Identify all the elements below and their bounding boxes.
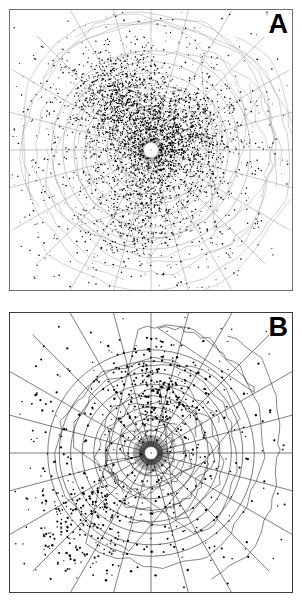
data-point xyxy=(226,85,227,86)
data-point xyxy=(150,65,151,66)
data-point xyxy=(86,112,88,114)
data-point xyxy=(220,168,221,169)
data-point xyxy=(63,428,65,430)
data-point xyxy=(167,493,169,495)
data-point xyxy=(105,511,107,513)
data-point xyxy=(151,210,152,211)
data-point xyxy=(131,202,132,203)
data-point xyxy=(128,258,129,259)
data-point xyxy=(148,178,150,180)
data-point xyxy=(159,201,161,203)
data-point xyxy=(255,170,256,171)
data-point xyxy=(148,105,150,107)
data-point xyxy=(220,90,222,92)
data-point xyxy=(33,210,34,211)
data-point xyxy=(126,110,127,111)
data-point xyxy=(98,524,99,525)
data-point xyxy=(72,218,73,219)
data-point xyxy=(96,220,98,222)
data-point xyxy=(117,183,118,184)
data-point xyxy=(159,145,160,146)
data-point xyxy=(127,137,128,138)
data-point xyxy=(124,197,125,198)
data-point xyxy=(117,531,119,533)
data-point xyxy=(211,496,213,498)
data-point xyxy=(67,228,69,230)
data-point xyxy=(126,130,127,131)
data-point xyxy=(195,140,196,141)
data-point xyxy=(138,112,139,113)
data-point xyxy=(67,527,69,529)
data-point xyxy=(118,368,120,370)
data-point xyxy=(198,124,199,125)
data-point xyxy=(72,115,73,116)
data-point xyxy=(131,251,133,253)
data-point xyxy=(148,71,149,72)
data-point xyxy=(183,122,184,123)
data-point xyxy=(181,152,183,154)
data-point xyxy=(152,469,154,471)
data-point xyxy=(172,100,173,101)
data-point xyxy=(193,99,195,101)
data-point xyxy=(219,231,221,233)
data-point xyxy=(195,132,197,134)
data-point xyxy=(163,113,164,114)
data-point xyxy=(54,136,55,137)
data-point xyxy=(207,401,209,403)
data-point xyxy=(102,140,103,141)
data-point xyxy=(105,114,106,115)
data-point xyxy=(149,111,150,112)
data-point xyxy=(201,249,202,250)
data-point xyxy=(176,198,177,199)
data-point xyxy=(79,93,80,94)
data-point xyxy=(21,246,22,247)
data-point xyxy=(208,185,209,186)
panel-b-map xyxy=(10,313,292,592)
data-point xyxy=(150,401,152,403)
data-point xyxy=(165,196,166,197)
data-point xyxy=(210,137,211,138)
data-point xyxy=(269,409,271,411)
data-point xyxy=(166,129,167,130)
data-point xyxy=(62,99,63,100)
data-point xyxy=(156,439,158,441)
data-point xyxy=(115,125,116,126)
data-point xyxy=(138,96,139,97)
data-point xyxy=(128,83,129,84)
data-point xyxy=(166,212,168,214)
data-point xyxy=(132,63,133,64)
data-point xyxy=(259,113,260,114)
data-point xyxy=(122,110,123,111)
data-point xyxy=(92,147,93,148)
data-point xyxy=(179,163,180,164)
data-point xyxy=(189,158,190,159)
data-point xyxy=(136,249,138,251)
data-point xyxy=(266,91,268,93)
data-point xyxy=(85,92,87,94)
data-point xyxy=(47,453,49,455)
data-point xyxy=(130,491,132,493)
data-point xyxy=(174,96,175,97)
data-point xyxy=(252,90,254,92)
data-point xyxy=(182,422,184,424)
data-point xyxy=(139,156,140,157)
data-point xyxy=(76,499,78,501)
data-point xyxy=(216,516,218,518)
data-point xyxy=(176,264,177,265)
data-point xyxy=(229,227,230,228)
data-point xyxy=(247,393,248,394)
data-point xyxy=(124,152,125,153)
data-point xyxy=(165,111,167,113)
data-point xyxy=(146,203,148,205)
data-point xyxy=(98,156,100,158)
data-point xyxy=(142,46,144,48)
data-point xyxy=(157,112,159,114)
data-point xyxy=(110,405,112,407)
data-point xyxy=(116,213,117,214)
data-point xyxy=(138,148,139,149)
data-point xyxy=(100,114,101,115)
data-point xyxy=(118,535,119,536)
data-point xyxy=(189,375,191,377)
data-point xyxy=(202,83,203,84)
data-point xyxy=(229,98,230,99)
